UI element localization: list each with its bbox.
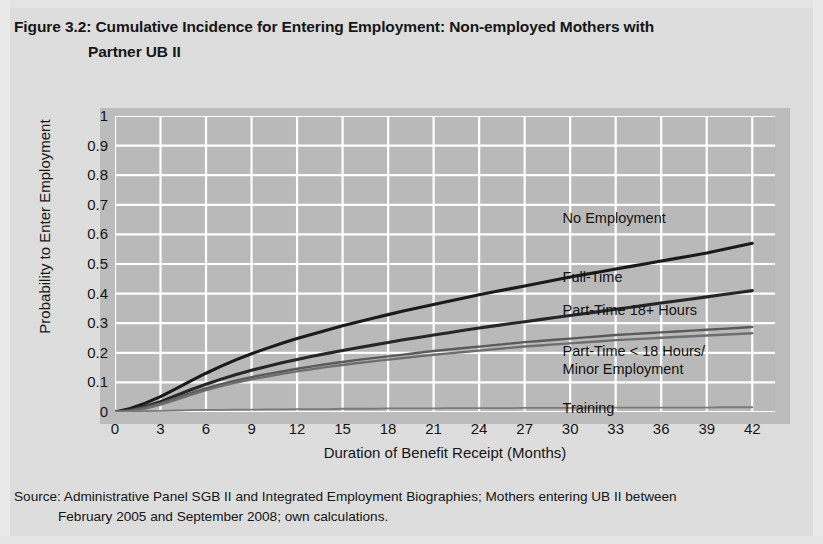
x-axis-title: Duration of Benefit Receipt (Months) [115, 444, 775, 461]
source-note-line-2: February 2005 and September 2008; own ca… [14, 507, 809, 527]
series-label-training: Training [563, 399, 615, 417]
page-margin-bottom [0, 536, 823, 544]
y-axis-tick-label: 0.8 [74, 167, 108, 182]
x-axis-tick-label: 21 [414, 421, 454, 436]
x-axis-tick-label: 6 [186, 421, 226, 436]
y-axis-tick-label: 0.2 [74, 345, 108, 360]
y-axis-tick-labels: 00.10.20.30.40.50.60.70.80.91 [62, 0, 108, 544]
x-axis-tick-label: 15 [323, 421, 363, 436]
y-axis-tick-label: 0.4 [74, 286, 108, 301]
y-axis-tick-label: 0.7 [74, 197, 108, 212]
x-axis-tick-label: 12 [277, 421, 317, 436]
y-axis-tick-label: 0.9 [74, 138, 108, 153]
x-axis-tick-label: 0 [95, 421, 135, 436]
x-axis-tick-label: 9 [232, 421, 272, 436]
x-axis-tick-label: 42 [732, 421, 772, 436]
series-label-part-time-18-hours-minor-employment: Part-Time < 18 Hours/ Minor Employment [563, 342, 706, 378]
series-label-part-time-18-hours: Part-Time 18+ Hours [563, 301, 697, 319]
x-axis-tick-label: 3 [141, 421, 181, 436]
page-margin-top [0, 0, 823, 8]
y-axis-tick-label: 0.6 [74, 226, 108, 241]
x-axis-tick-label: 18 [368, 421, 408, 436]
x-axis-tick-label: 24 [459, 421, 499, 436]
x-axis-tick-label: 27 [505, 421, 545, 436]
page-margin-right [813, 0, 823, 544]
x-axis-tick-labels: 03691215182124273033363942 [0, 421, 823, 441]
y-axis-tick-label: 0.1 [74, 374, 108, 389]
series-label-no-employment: No Employment [563, 209, 666, 227]
figure-title-line-1: Figure 3.2: Cumulative Incidence for Ent… [14, 18, 654, 35]
source-note: Source: Administrative Panel SGB II and … [14, 487, 809, 527]
y-axis-tick-label: 0.5 [74, 256, 108, 271]
x-axis-tick-label: 36 [641, 421, 681, 436]
figure-title: Figure 3.2: Cumulative Incidence for Ent… [14, 14, 804, 64]
x-axis-tick-label: 39 [687, 421, 727, 436]
figure-title-line-2: Partner UB II [14, 39, 804, 64]
y-axis-tick-label: 0 [74, 404, 108, 419]
x-axis-tick-label: 33 [596, 421, 636, 436]
y-axis-title: Probability to Enter Employment [36, 97, 53, 357]
y-axis-tick-label: 0.3 [74, 315, 108, 330]
figure-page: Figure 3.2: Cumulative Incidence for Ent… [0, 0, 823, 544]
page-margin-left [0, 0, 10, 544]
x-axis-tick-label: 30 [550, 421, 590, 436]
y-axis-tick-label: 1 [74, 108, 108, 123]
series-label-full-time: Full-Time [563, 268, 623, 286]
source-note-line-1: Source: Administrative Panel SGB II and … [14, 489, 677, 504]
